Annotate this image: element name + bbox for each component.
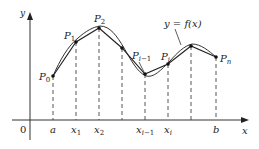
tick-xi: xi	[164, 124, 172, 137]
x-axis-arrow-icon	[241, 117, 249, 123]
tick-x2: x2	[94, 124, 104, 137]
label-x-axis: x	[242, 125, 248, 136]
label-p0: P0	[38, 71, 50, 84]
y-axis-arrow-icon	[27, 12, 33, 20]
tick-xi-1: xi−1	[136, 124, 154, 137]
arc-length-diagram: P0 P1 P2 Pi−1 Pi Pn y = f(x) y x 0 a x1 …	[0, 0, 259, 149]
curve-label-pointer	[175, 29, 181, 45]
label-curve: y = f(x)	[163, 18, 202, 29]
tick-b: b	[213, 124, 219, 135]
label-origin: 0	[20, 124, 26, 135]
label-y-axis: y	[19, 8, 26, 18]
label-p1: P1	[63, 30, 75, 43]
label-pn: Pn	[219, 53, 232, 66]
tick-x1: x1	[71, 124, 81, 137]
label-pi: Pi	[160, 51, 170, 64]
tick-a: a	[50, 124, 56, 135]
label-p2: P2	[93, 13, 105, 26]
